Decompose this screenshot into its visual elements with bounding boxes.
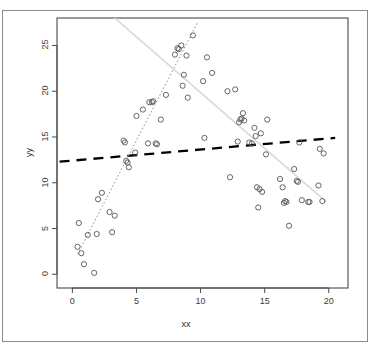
data-point xyxy=(112,213,117,218)
y-tick-label: 25 xyxy=(41,35,50,55)
data-point xyxy=(233,87,238,92)
data-point xyxy=(316,183,321,188)
data-point xyxy=(94,231,99,236)
data-point xyxy=(256,205,261,210)
data-point xyxy=(92,270,97,275)
data-point xyxy=(172,52,177,57)
data-point xyxy=(158,117,163,122)
light-gray-trend-line xyxy=(115,18,327,202)
data-point xyxy=(79,251,84,256)
x-axis-title: xx xyxy=(0,320,372,329)
y-tick-label: 5 xyxy=(41,218,50,238)
data-point xyxy=(321,151,326,156)
y-tick-label: 10 xyxy=(41,172,50,192)
y-axis-title: yy xyxy=(25,133,34,173)
subgroup-dotted-line xyxy=(78,22,199,254)
data-point xyxy=(299,198,304,203)
data-point xyxy=(85,232,90,237)
data-point xyxy=(180,83,185,88)
data-point xyxy=(99,190,104,195)
scatter-plot-canvas xyxy=(0,0,372,352)
data-point xyxy=(75,244,80,249)
x-tick-label: 0 xyxy=(62,297,82,306)
data-point xyxy=(190,33,195,38)
data-point xyxy=(181,72,186,77)
data-point xyxy=(240,111,245,116)
data-point xyxy=(95,197,100,202)
data-point xyxy=(253,133,258,138)
data-point xyxy=(265,117,270,122)
plot-axes xyxy=(52,45,329,293)
data-point xyxy=(317,146,322,151)
y-tick-label: 20 xyxy=(41,81,50,101)
data-point xyxy=(201,79,206,84)
data-point xyxy=(76,220,81,225)
data-point xyxy=(227,175,232,180)
data-point xyxy=(258,131,263,136)
data-point xyxy=(145,141,150,146)
data-point xyxy=(280,185,285,190)
data-point xyxy=(81,262,86,267)
data-point xyxy=(110,230,115,235)
data-point xyxy=(204,55,209,60)
data-point xyxy=(210,70,215,75)
figure-container: 05101520 0510152025 xx yy xyxy=(0,0,372,352)
plot-panel-box xyxy=(57,18,348,288)
x-tick-label: 20 xyxy=(319,297,339,306)
overall-regression-line xyxy=(60,138,336,162)
data-points xyxy=(75,33,326,276)
trend-lines xyxy=(60,18,336,254)
data-point xyxy=(163,92,168,97)
data-point xyxy=(225,89,230,94)
data-point xyxy=(140,107,145,112)
data-point xyxy=(263,152,268,157)
data-point xyxy=(184,53,189,58)
x-tick-label: 10 xyxy=(191,297,211,306)
data-point xyxy=(202,135,207,140)
data-point xyxy=(292,166,297,171)
data-point xyxy=(134,113,139,118)
data-point xyxy=(235,139,240,144)
y-tick-label: 15 xyxy=(41,126,50,146)
data-point xyxy=(107,209,112,214)
data-point xyxy=(185,95,190,100)
data-point xyxy=(286,223,291,228)
data-point xyxy=(252,125,257,130)
x-tick-label: 5 xyxy=(126,297,146,306)
y-tick-label: 0 xyxy=(41,264,50,284)
x-tick-label: 15 xyxy=(255,297,275,306)
data-point xyxy=(179,43,184,48)
data-point xyxy=(277,176,282,181)
